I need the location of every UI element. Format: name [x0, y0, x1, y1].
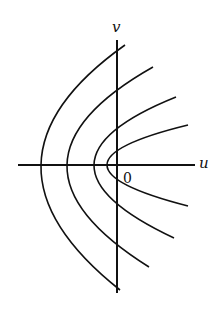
u-axis-label: u	[199, 156, 209, 171]
v-axis-label: v	[112, 20, 120, 35]
parabola-1	[41, 45, 125, 290]
parabola-2	[67, 67, 153, 267]
parabola-3	[94, 97, 176, 238]
origin-label: 0	[123, 171, 132, 185]
diagram-canvas	[0, 0, 224, 311]
